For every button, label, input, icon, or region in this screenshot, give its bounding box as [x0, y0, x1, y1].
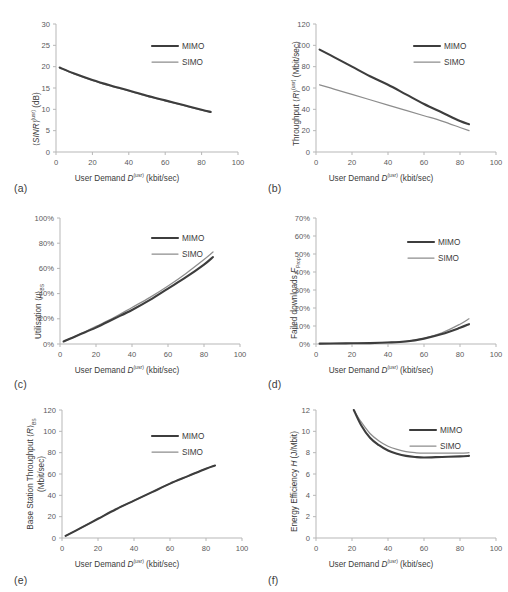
- panel-label: (d): [268, 378, 281, 390]
- panel-label: (e): [14, 574, 27, 586]
- x-axis-title: User Demand D(usr) (kbit/sec): [0, 364, 254, 375]
- x-tick-label: 40: [384, 158, 392, 167]
- x-tick-label: 60: [164, 350, 172, 359]
- x-tick-label: 20: [348, 350, 356, 359]
- x-tick-label: 100: [490, 158, 503, 167]
- x-tick-label: 0: [58, 350, 62, 359]
- y-tick-label: 0: [306, 534, 310, 543]
- series-line-simo: [64, 252, 213, 341]
- y-tick-label: 20: [48, 512, 56, 521]
- chart-panel-e: 020406080100120020406080100MIMOSIMOBase …: [0, 392, 254, 589]
- legend-label-mimo: MIMO: [444, 42, 466, 51]
- legend-label-simo: SIMO: [182, 58, 203, 67]
- x-tick-label: 20: [94, 544, 102, 553]
- legend: MIMOSIMO: [408, 238, 460, 263]
- x-tick-label: 80: [456, 544, 464, 553]
- panel-label: (c): [14, 378, 27, 390]
- y-tick-label: 60: [48, 470, 56, 479]
- panel-label: (f): [268, 574, 279, 586]
- y-axis-title: ⟨SINR⟩(usr) (dB): [30, 92, 42, 146]
- x-axis-title: User Demand D(usr) (kbit/sec): [0, 558, 254, 569]
- chart-panel-d: 0%10%20%30%40%50%60%70%020406080100MIMOS…: [254, 196, 508, 393]
- series-line-mimo: [320, 324, 469, 343]
- legend-label-mimo: MIMO: [438, 238, 460, 247]
- figure-sheet: 051015202530020406080100MIMOSIMO⟨SINR⟩(u…: [0, 0, 508, 592]
- x-axis-title: User Demand D(usr) (kbit/sec): [254, 558, 508, 569]
- x-tick-label: 60: [420, 158, 428, 167]
- x-tick-label: 60: [166, 544, 174, 553]
- series-line-simo: [320, 319, 469, 344]
- x-tick-label: 20: [348, 544, 356, 553]
- y-tick-label: 80%: [39, 239, 54, 248]
- x-tick-label: 0: [314, 544, 318, 553]
- legend-label-simo: SIMO: [438, 254, 459, 263]
- x-axis-title: User Demand D(usr) (kbit/sec): [254, 172, 508, 183]
- legend-label-mimo: MIMO: [440, 426, 462, 435]
- legend-label-mimo: MIMO: [182, 234, 204, 243]
- x-tick-label: 80: [456, 350, 464, 359]
- legend-label-mimo: MIMO: [182, 42, 204, 51]
- y-tick-label: 20: [42, 62, 50, 71]
- y-tick-label: 25: [42, 41, 50, 50]
- x-tick-label: 0: [314, 158, 318, 167]
- series-line-mimo: [60, 68, 211, 112]
- x-tick-label: 20: [348, 158, 356, 167]
- y-tick-label: 40: [302, 105, 310, 114]
- x-tick-label: 100: [234, 350, 247, 359]
- chart-panel-c: 0%20%40%60%80%100%020406080100MIMOSIMOUt…: [0, 196, 254, 393]
- x-tick-label: 40: [125, 158, 133, 167]
- y-tick-label: 15: [42, 84, 50, 93]
- panel-label: (a): [14, 182, 27, 194]
- x-axis-title: User Demand D(usr) (kbit/sec): [0, 172, 254, 183]
- x-tick-label: 0: [54, 158, 58, 167]
- panel-label: (b): [268, 182, 281, 194]
- y-tick-label: 70%: [295, 214, 310, 223]
- chart-panel-a: 051015202530020406080100MIMOSIMO⟨SINR⟩(u…: [0, 0, 254, 197]
- y-tick-label: 6: [306, 470, 310, 479]
- y-tick-label: 60%: [295, 232, 310, 241]
- x-tick-label: 40: [130, 544, 138, 553]
- chart-panel-b: 020406080100120020406080100MIMOSIMOThrou…: [254, 0, 508, 197]
- y-tick-label: 30: [42, 20, 50, 29]
- legend: MIMOSIMO: [152, 432, 204, 457]
- y-tick-label: 60%: [39, 264, 54, 273]
- x-tick-label: 80: [456, 158, 464, 167]
- y-axis-title: Utilisation ⟨μ⟩BS: [34, 284, 45, 339]
- chart-panel-f: 024681012020406080100MIMOSIMOEnergy Effi…: [254, 392, 508, 589]
- x-tick-label: 0: [60, 544, 64, 553]
- series-line-mimo: [66, 465, 215, 535]
- legend-label-mimo: MIMO: [182, 432, 204, 441]
- y-tick-label: 120: [297, 20, 310, 29]
- x-tick-label: 20: [88, 158, 96, 167]
- x-tick-label: 0: [314, 350, 318, 359]
- legend-label-simo: SIMO: [182, 250, 203, 259]
- x-tick-label: 100: [490, 350, 503, 359]
- x-tick-label: 60: [161, 158, 169, 167]
- y-tick-label: 100%: [35, 214, 55, 223]
- y-tick-label: 12: [302, 406, 310, 415]
- legend-label-simo: SIMO: [444, 58, 465, 67]
- y-tick-label: 4: [306, 491, 310, 500]
- x-axis-title: User Demand D(usr) (kbit/sec): [254, 364, 508, 375]
- y-axis-title: Throughput ⟨R⟩(usr) (Mbit/sec): [290, 41, 302, 146]
- y-tick-label: 0%: [299, 340, 310, 349]
- x-tick-label: 100: [232, 158, 245, 167]
- x-tick-label: 80: [200, 350, 208, 359]
- y-tick-label: 10: [302, 427, 310, 436]
- x-tick-label: 80: [202, 544, 210, 553]
- y-tick-label: 5: [46, 126, 50, 135]
- x-tick-label: 40: [128, 350, 136, 359]
- x-tick-label: 80: [197, 158, 205, 167]
- y-tick-label: 60: [302, 84, 310, 93]
- legend: MIMOSIMO: [414, 42, 466, 67]
- y-tick-label: 0%: [43, 340, 54, 349]
- y-tick-label: 0: [46, 148, 50, 157]
- series-line-simo: [320, 85, 469, 131]
- y-tick-label: 0: [306, 148, 310, 157]
- y-tick-label: 0: [52, 534, 56, 543]
- x-tick-label: 100: [236, 544, 249, 553]
- y-axis-title: Failed downloads FProp: [290, 257, 301, 339]
- plot-area-a: 051015202530020406080100MIMOSIMO: [0, 0, 254, 175]
- legend: MIMOSIMO: [152, 234, 204, 259]
- x-tick-label: 60: [420, 350, 428, 359]
